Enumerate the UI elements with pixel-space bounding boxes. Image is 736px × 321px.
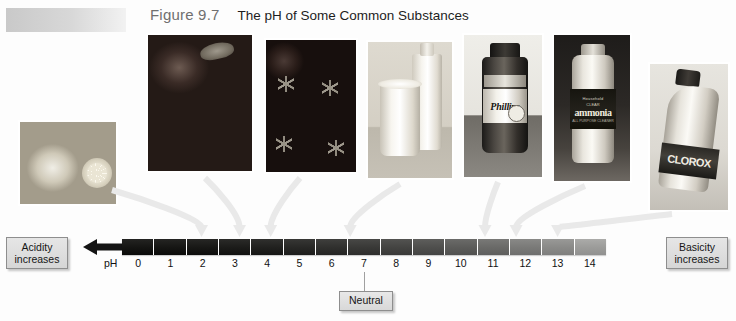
ph-tick-8: 8	[393, 257, 399, 269]
ph-tick-5: 5	[297, 257, 303, 269]
ph-bar-segment	[219, 239, 251, 255]
ph-bar-segment	[478, 239, 510, 255]
ph-bar-segment	[575, 239, 606, 255]
clorox-cap	[675, 69, 701, 88]
ph-tick-7: 7	[361, 257, 367, 269]
acidity-label-line2: increases	[12, 254, 62, 266]
tomato-calyx	[322, 80, 338, 96]
ph-tick-1: 1	[167, 257, 173, 269]
ph-bar-segment	[381, 239, 413, 255]
ph-tick-0: 0	[135, 257, 141, 269]
ph-scale: Acidity increases Basicity increases pH …	[0, 231, 736, 277]
figure-title: The pH of Some Common Substances	[238, 8, 469, 23]
ph-bar-segment	[154, 239, 186, 255]
ammonia-brand-text: Household	[583, 96, 604, 101]
ph-tick-labels: 01234567891011121314	[122, 257, 606, 271]
neutral-label-box: Neutral	[339, 291, 393, 311]
acidity-label-box: Acidity increases	[6, 237, 68, 269]
clorox-brand-text: CLOROX	[667, 152, 712, 169]
figure-container: Figure 9.7 The pH of Some Common Substan…	[0, 0, 736, 321]
milk-glass	[380, 84, 420, 156]
figure-caption: Figure 9.7 The pH of Some Common Substan…	[150, 6, 469, 23]
callout-arrow-tomatoes	[271, 178, 300, 227]
ammonia-fine-text: ALL PURPOSE CLEANER	[572, 119, 614, 123]
acidity-label-line1: Acidity	[12, 242, 62, 254]
ph-bar-segment	[348, 239, 380, 255]
tomato-calyx	[328, 140, 344, 156]
photo-tomatoes	[264, 38, 358, 174]
ph-bar-segment	[316, 239, 348, 255]
ammonia-label: Household CLEAR ammonia ALL PURPOSE CLEA…	[570, 89, 616, 129]
ph-tick-14: 14	[584, 257, 596, 269]
photo-clorox: CLOROX	[648, 62, 730, 212]
ph-tick-10: 10	[455, 257, 467, 269]
corner-decoration	[6, 8, 126, 32]
acidity-arrow-icon	[83, 239, 123, 255]
ph-tick-11: 11	[488, 257, 499, 269]
phillips-label-top	[484, 75, 526, 87]
callout-arrow-milk	[350, 184, 400, 227]
lemon-half	[82, 158, 112, 188]
callout-arrow-clorox	[558, 214, 672, 227]
ph-gradient-bar	[122, 239, 606, 255]
callout-arrow-phillips	[485, 182, 498, 227]
photo-strawberries	[146, 33, 254, 173]
ph-bar-segment	[187, 239, 219, 255]
callout-arrow-lemons	[112, 190, 202, 227]
photo-lemons	[18, 120, 118, 206]
basicity-label-line1: Basicity	[672, 242, 722, 254]
ph-tick-2: 2	[200, 257, 206, 269]
phillips-seal	[508, 105, 525, 122]
ph-bar-segment	[284, 239, 316, 255]
ph-bar-segment	[445, 239, 477, 255]
callout-arrow-strawberries	[205, 178, 240, 227]
ph-bar-segment	[251, 239, 283, 255]
ph-bar-segment	[413, 239, 445, 255]
ammonia-name-text: ammonia	[574, 108, 611, 118]
photo-milk	[366, 40, 454, 180]
ph-tick-4: 4	[264, 257, 270, 269]
ph-bar-segment	[510, 239, 542, 255]
tomato-calyx	[278, 76, 294, 92]
figure-number: Figure 9.7	[150, 6, 220, 23]
basicity-label-box: Basicity increases	[666, 237, 728, 269]
photo-phillips: Phillips	[462, 33, 544, 179]
ph-tick-9: 9	[426, 257, 432, 269]
basicity-label-line2: increases	[672, 254, 722, 266]
callout-arrow-ammonia	[516, 186, 585, 227]
photo-ammonia: Household CLEAR ammonia ALL PURPOSE CLEA…	[552, 33, 632, 183]
ph-bar-segment	[122, 239, 154, 255]
ph-tick-3: 3	[232, 257, 238, 269]
ph-tick-13: 13	[552, 257, 564, 269]
ammonia-sub-text: CLEAR	[586, 102, 599, 107]
tomato-calyx	[276, 136, 292, 152]
ph-tick-12: 12	[519, 257, 531, 269]
ph-tick-6: 6	[329, 257, 335, 269]
ph-axis-label: pH	[104, 257, 117, 269]
ph-bar-segment	[542, 239, 574, 255]
neutral-connector-line	[364, 272, 365, 291]
